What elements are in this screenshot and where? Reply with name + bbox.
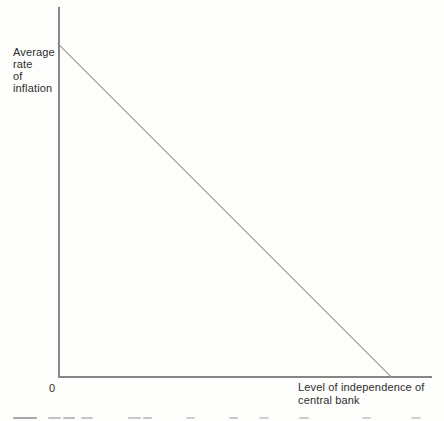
inflation-independence-curve	[57, 43, 392, 378]
caption-fragment	[143, 417, 152, 419]
x-axis-line	[58, 376, 432, 378]
y-axis-label-line: inflation	[13, 82, 55, 94]
caption-fragment	[128, 417, 141, 419]
y-axis-label-line: rate	[13, 58, 55, 70]
caption-fragment	[63, 417, 75, 419]
caption-fragment	[81, 417, 93, 419]
caption-fragment	[48, 417, 61, 419]
y-axis-label: Average rate of inflation	[13, 46, 55, 94]
x-axis-label: Level of independence of central bank	[298, 381, 425, 407]
caption-fragment	[13, 417, 37, 419]
caption-fragment	[299, 417, 309, 419]
figure-canvas: Average rate of inflation 0 Level of ind…	[0, 0, 444, 421]
x-axis-label-line: central bank	[298, 394, 425, 407]
x-axis-label-line: Level of independence of	[298, 381, 425, 394]
y-axis-label-line: of	[13, 70, 55, 82]
caption-fragment	[186, 417, 195, 419]
cropped-caption-fragments	[0, 417, 444, 421]
caption-fragment	[411, 417, 421, 419]
caption-fragment	[229, 417, 238, 419]
caption-fragment	[259, 417, 269, 419]
caption-fragment	[362, 417, 371, 419]
y-axis-line	[58, 7, 60, 377]
y-axis-label-line: Average	[13, 46, 55, 58]
origin-tick-label: 0	[49, 382, 55, 394]
